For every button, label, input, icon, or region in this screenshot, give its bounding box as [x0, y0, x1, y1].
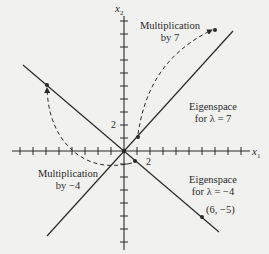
label-point-6-neg5: (6, −5) — [206, 204, 235, 216]
label-multiplication-by-7-line1: Multiplication — [135, 20, 205, 32]
x2-axis-label: x2 — [115, 2, 123, 19]
point-6-neg5 — [200, 215, 204, 219]
label-eigenspace-lambda-7-line1: Eigenspace — [178, 101, 248, 113]
label-multiplication-by-neg4: Multiplication by −4 — [33, 168, 103, 192]
label-multiplication-by-7-line2: by 7 — [135, 32, 205, 44]
eigenspace-diagram: x2 x1 2 2 Multiplication by 7 Eigenspace… — [0, 0, 269, 254]
origin-point — [122, 149, 126, 153]
label-multiplication-by-neg4-line1: Multiplication — [33, 168, 103, 180]
label-multiplication-by-7: Multiplication by 7 — [135, 20, 205, 44]
eigenspace-lambda-neg4-line — [23, 65, 219, 232]
x-axis-tick-label-2: 2 — [146, 156, 151, 168]
point-7v — [213, 28, 217, 32]
label-eigenspace-lambda-neg4-line2: for λ = −4 — [178, 186, 248, 198]
x1-axis-subscript: 1 — [257, 152, 261, 160]
label-multiplication-by-neg4-line2: by −4 — [33, 180, 103, 192]
label-eigenspace-lambda-7: Eigenspace for λ = 7 — [178, 101, 248, 125]
point-v-lambda-7 — [136, 135, 140, 139]
x2-axis-subscript: 2 — [120, 9, 124, 17]
point-u-lambda-neg4 — [133, 159, 137, 163]
x1-axis-label: x1 — [252, 145, 260, 162]
y-axis — [120, 16, 128, 250]
label-eigenspace-lambda-neg4-line1: Eigenspace — [178, 174, 248, 186]
label-eigenspace-lambda-neg4: Eigenspace for λ = −4 — [178, 174, 248, 198]
label-eigenspace-lambda-7-line2: for λ = 7 — [178, 113, 248, 125]
y-axis-tick-label-2: 2 — [111, 119, 116, 131]
point-neg4u — [45, 83, 49, 87]
arrow-multiplication-by-neg4 — [47, 88, 132, 165]
x-axis — [12, 147, 250, 155]
